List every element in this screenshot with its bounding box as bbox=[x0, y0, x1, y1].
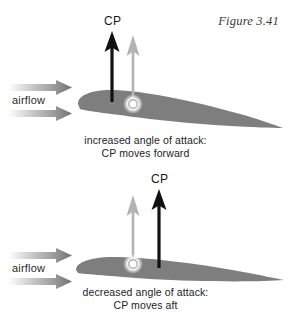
caption-top-line2: CP moves forward bbox=[0, 147, 291, 160]
cp-label-bottom: CP bbox=[151, 172, 168, 186]
caption-bottom-line1: decreased angle of attack: bbox=[0, 286, 291, 299]
airflow-label-bottom: airflow bbox=[12, 262, 45, 274]
cp-arrow-black-bottom bbox=[152, 189, 167, 268]
airflow-arrow-lower bbox=[8, 106, 72, 121]
airflow-arrow-upper-bottom bbox=[8, 248, 72, 263]
reference-arrow-gray-bottom bbox=[123, 195, 143, 274]
reference-arrow-gray-top bbox=[123, 35, 143, 114]
airflow-arrow-upper bbox=[8, 80, 72, 95]
caption-top-line1: increased angle of attack: bbox=[0, 134, 291, 147]
figure-diagram-page: Figure 3.41 bbox=[0, 0, 291, 314]
panel-decreased-angle-of-attack: CP airflow decreased angle of attack: CP… bbox=[0, 160, 291, 314]
caption-top: increased angle of attack: CP moves forw… bbox=[0, 134, 291, 159]
airfoil-shape-top bbox=[78, 90, 283, 128]
panel-increased-angle-of-attack: CP airflow increased angle of attack: CP… bbox=[0, 0, 291, 160]
airfoil-shape-bottom bbox=[76, 257, 284, 281]
caption-bottom: decreased angle of attack: CP moves aft bbox=[0, 286, 291, 311]
cp-label-top: CP bbox=[104, 14, 121, 28]
airflow-label-top: airflow bbox=[12, 94, 45, 106]
caption-bottom-line2: CP moves aft bbox=[0, 299, 291, 312]
